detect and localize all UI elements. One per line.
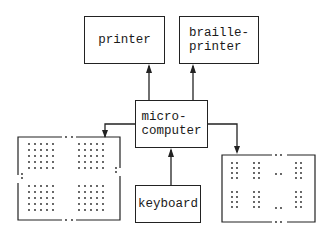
keyboard-box: keyboard <box>135 185 201 223</box>
arrow-to-visual-display <box>105 124 135 137</box>
visual-display-dots <box>21 136 117 221</box>
microcomputer-label: micro- computer <box>141 110 201 138</box>
keyboard-label: keyboard <box>138 197 198 211</box>
arrow-to-braille-display <box>207 124 237 152</box>
microcomputer-box: micro- computer <box>135 100 208 148</box>
printer-box: printer <box>84 16 165 64</box>
printer-label: printer <box>98 33 151 47</box>
braille-printer-label: braille- printer <box>189 26 249 54</box>
visual-display <box>18 137 120 220</box>
braille-printer-box: braille- printer <box>179 16 259 64</box>
braille-display-dots <box>231 154 302 223</box>
braille-display <box>222 155 315 222</box>
